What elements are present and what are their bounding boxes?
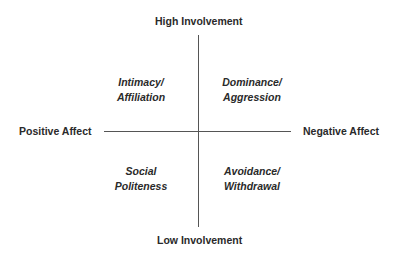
quadrant-line: Social [86, 164, 196, 179]
quadrant-line: Withdrawal [197, 179, 307, 194]
quadrant-dominance-aggression: Dominance/ Aggression [197, 75, 307, 105]
quadrant-line: Dominance/ [197, 75, 307, 90]
quadrant-line: Aggression [197, 90, 307, 105]
quadrant-intimacy-affiliation: Intimacy/ Affiliation [86, 75, 196, 105]
axis-label-negative-affect: Negative Affect [303, 125, 379, 137]
axis-label-positive-affect: Positive Affect [19, 125, 92, 137]
horizontal-axis-line [104, 131, 291, 132]
quadrant-line: Avoidance/ [197, 164, 307, 179]
quadrant-social-politeness: Social Politeness [86, 164, 196, 194]
quadrant-line: Intimacy/ [86, 75, 196, 90]
axis-label-high-involvement: High Involvement [155, 15, 243, 27]
quadrant-avoidance-withdrawal: Avoidance/ Withdrawal [197, 164, 307, 194]
axis-label-low-involvement: Low Involvement [157, 234, 242, 246]
quadrant-line: Politeness [86, 179, 196, 194]
quadrant-line: Affiliation [86, 90, 196, 105]
